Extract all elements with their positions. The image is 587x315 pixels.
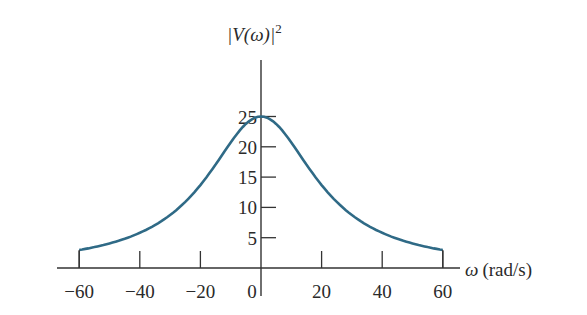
x-tick-label: −40 xyxy=(125,281,155,302)
y-tick-label: 10 xyxy=(238,197,257,218)
x-tick-label: −20 xyxy=(186,281,216,302)
y-tick-label: 15 xyxy=(238,167,257,188)
y-tick-label: 20 xyxy=(238,137,257,158)
x-tick-label: 40 xyxy=(373,281,392,302)
y-tick-label: 5 xyxy=(248,228,258,249)
y-axis-title: |V(ω)|2 xyxy=(227,21,282,46)
x-tick-label: −60 xyxy=(64,281,94,302)
x-tick-label: 20 xyxy=(312,281,331,302)
x-axis-title: ω(rad/s) xyxy=(465,259,532,281)
x-ticks: −60−40−200204060 xyxy=(64,251,452,302)
x-tick-label: 0 xyxy=(247,281,257,302)
chart: −60−40−200204060 510152025 |V(ω)|2 ω(rad… xyxy=(0,0,587,315)
x-tick-label: 60 xyxy=(433,281,452,302)
